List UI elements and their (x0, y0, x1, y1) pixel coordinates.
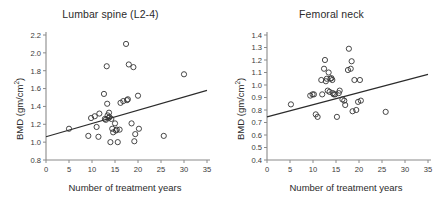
y-tick-label: 1.2 (30, 120, 41, 129)
plot-area-femoral: 0.40.50.60.70.80.91.01.11.21.31.40510152… (221, 0, 442, 201)
panel-lumbar-spine: Lumbar spine (L2-4) BMD (gm/cm2) Number … (0, 0, 221, 201)
y-tick-label: 0.8 (251, 106, 262, 115)
x-tick-label: 20 (355, 165, 363, 174)
x-tick-label: 25 (157, 165, 165, 174)
y-tick-label: 0.8 (30, 156, 41, 165)
x-tick-label: 10 (88, 165, 96, 174)
data-point (131, 65, 136, 70)
data-point (346, 46, 351, 51)
y-tick-label: 0.9 (251, 93, 262, 102)
y-tick-label: 1.1 (251, 68, 262, 77)
y-tick-label: 1.3 (251, 43, 262, 52)
y-tick-label: 1.0 (251, 81, 262, 90)
y-tick-label: 0.6 (251, 131, 262, 140)
x-tick-label: 30 (401, 165, 409, 174)
x-tick-label: 35 (424, 165, 432, 174)
x-tick-label: 30 (180, 165, 188, 174)
x-tick-label: 10 (309, 165, 317, 174)
x-tick-label: 0 (265, 165, 269, 174)
y-tick-label: 1.6 (30, 84, 41, 93)
y-tick-label: 0.5 (251, 143, 262, 152)
x-tick-label: 5 (288, 165, 292, 174)
x-tick-label: 0 (44, 165, 48, 174)
y-tick-label: 1.0 (30, 138, 41, 147)
data-point (383, 109, 388, 114)
x-tick-label: 35 (203, 165, 211, 174)
data-point (104, 64, 109, 69)
data-point (334, 114, 339, 119)
x-tick-label: 15 (332, 165, 340, 174)
y-tick-label: 2.2 (30, 31, 41, 40)
y-tick-label: 1.8 (30, 67, 41, 76)
data-point (133, 132, 138, 137)
data-point (352, 77, 357, 82)
data-point (181, 72, 186, 77)
data-point (123, 41, 128, 46)
data-point (349, 59, 354, 64)
x-tick-label: 5 (67, 165, 71, 174)
data-point (86, 133, 91, 138)
data-point (135, 93, 140, 98)
plot-area-lumbar: 0.81.01.21.41.61.82.02.205101520253035 (0, 0, 221, 201)
data-point (136, 126, 141, 131)
data-point (320, 92, 325, 97)
regression-line (267, 74, 428, 117)
data-point (288, 102, 293, 107)
data-point (112, 121, 117, 126)
data-point (321, 66, 326, 71)
x-tick-label: 20 (134, 165, 142, 174)
data-point (161, 133, 166, 138)
data-point (101, 91, 106, 96)
data-point (108, 140, 113, 145)
data-point (132, 139, 137, 144)
data-point (357, 77, 362, 82)
panel-femoral-neck: Femoral neck BMD (gm/cm2) Number of trea… (221, 0, 442, 201)
data-point (129, 121, 134, 126)
figure-two-panel-scatter: Lumbar spine (L2-4) BMD (gm/cm2) Number … (0, 0, 442, 201)
data-point (97, 111, 102, 116)
data-point (322, 57, 327, 62)
x-tick-label: 25 (378, 165, 386, 174)
data-point (105, 101, 110, 106)
y-tick-label: 2.0 (30, 49, 41, 58)
y-tick-label: 1.4 (251, 31, 262, 40)
x-tick-label: 15 (111, 165, 119, 174)
data-point (96, 134, 101, 139)
data-point (94, 124, 99, 129)
y-tick-label: 1.2 (251, 56, 262, 65)
data-point (115, 140, 120, 145)
y-tick-label: 1.4 (30, 102, 41, 111)
y-tick-label: 0.4 (251, 156, 262, 165)
data-point (326, 70, 331, 75)
y-tick-label: 0.7 (251, 118, 262, 127)
